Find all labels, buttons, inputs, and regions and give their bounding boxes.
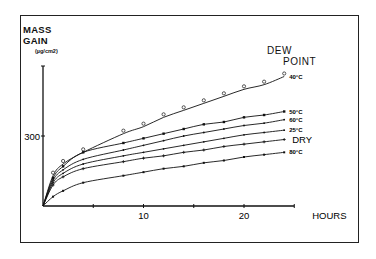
data-point — [283, 72, 286, 75]
data-point — [283, 119, 285, 121]
data-point — [143, 144, 145, 146]
data-point — [183, 128, 185, 130]
series-label: 40°C — [289, 74, 303, 80]
data-point — [202, 99, 205, 102]
data-point — [162, 113, 165, 116]
data-point — [142, 137, 144, 139]
y-tick-label: 300 — [24, 131, 40, 142]
x-tick-label: 10 — [138, 210, 149, 221]
data-point — [142, 122, 145, 125]
data-point — [123, 155, 125, 157]
data-point — [283, 110, 285, 112]
data-point — [82, 158, 84, 160]
data-point — [122, 129, 125, 132]
x-axis-title: HOURS — [312, 210, 346, 221]
data-point — [223, 137, 225, 139]
data-point — [203, 141, 205, 143]
x-tick-label: 20 — [239, 210, 250, 221]
data-point — [223, 128, 225, 130]
data-point — [52, 196, 54, 198]
data-point — [82, 151, 84, 153]
data-point — [203, 162, 205, 164]
data-point — [243, 116, 245, 118]
data-point — [122, 142, 124, 144]
data-point — [162, 132, 164, 134]
series-label: 80°C — [289, 149, 303, 155]
data-point — [283, 151, 285, 153]
data-point — [123, 149, 125, 151]
data-point — [263, 122, 265, 124]
data-point — [223, 160, 225, 162]
data-point — [263, 154, 265, 156]
plot-area: 1020HOURS30040°C50°C60°C25°CDRY80°C — [0, 0, 376, 259]
data-point — [223, 121, 225, 123]
data-point — [82, 148, 85, 151]
data-point — [82, 182, 84, 184]
data-point — [163, 148, 165, 150]
data-point — [203, 123, 205, 125]
curve-50c — [43, 112, 284, 207]
data-point — [62, 165, 64, 167]
data-point — [62, 172, 64, 174]
data-point — [242, 85, 245, 88]
data-point — [243, 134, 245, 136]
data-point — [283, 129, 285, 131]
series-label: 50°C — [289, 109, 303, 115]
data-point — [52, 182, 54, 184]
data-point — [182, 106, 185, 109]
data-point — [143, 151, 145, 153]
series-label: 60°C — [289, 117, 303, 123]
data-point — [62, 190, 64, 192]
data-point — [263, 80, 266, 83]
data-point — [143, 171, 145, 173]
data-point — [263, 114, 265, 116]
data-point — [62, 169, 64, 171]
data-point — [51, 171, 54, 174]
data-point — [62, 159, 65, 162]
data-point — [82, 163, 84, 165]
data-point — [243, 125, 245, 127]
data-point — [263, 132, 265, 134]
series-label: 25°C — [289, 127, 303, 133]
data-point — [163, 140, 165, 142]
data-point — [122, 175, 124, 177]
data-point — [203, 132, 205, 134]
data-point — [163, 168, 165, 170]
data-point — [243, 156, 245, 158]
data-point — [222, 92, 225, 95]
data-point — [183, 144, 185, 146]
series-label: DRY — [292, 134, 313, 145]
data-point — [183, 135, 185, 137]
data-point — [183, 165, 185, 167]
